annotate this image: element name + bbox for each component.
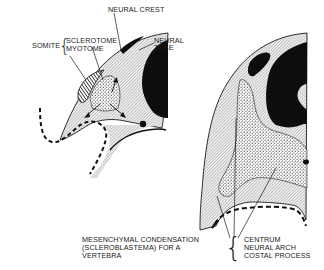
left-notochord	[140, 121, 146, 127]
vertebra-brace: {	[225, 232, 242, 262]
label-neural-tube-line2: TUBE	[154, 44, 174, 52]
label-costal-process: COSTAL PROCESS	[244, 252, 311, 260]
right-panel	[200, 33, 309, 230]
label-somite: SOMITE	[32, 42, 60, 50]
label-myotome: MYOTOME	[66, 45, 104, 53]
label-mesenchymal-line3: VERTEBRA	[82, 252, 121, 260]
label-neural-crest: NEURAL CREST	[108, 6, 164, 14]
right-notochord	[303, 160, 309, 165]
